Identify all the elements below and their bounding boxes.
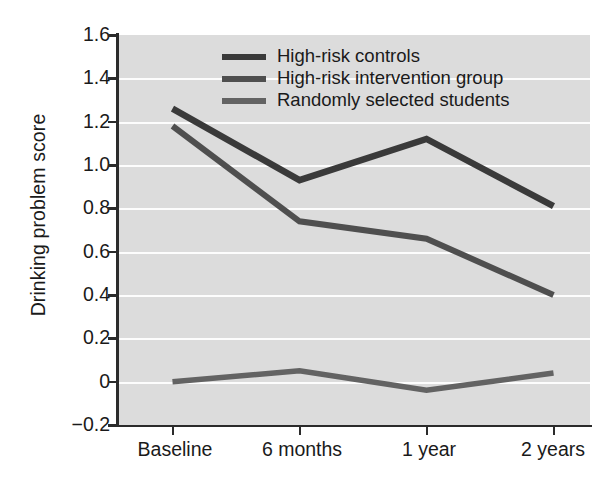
gridline-1-2	[118, 122, 590, 124]
y-tick-label-1-0: 1.0	[52, 155, 110, 175]
gridline-0-6	[118, 252, 590, 254]
legend-label-high-risk-intervention-group: High-risk intervention group	[277, 67, 503, 89]
y-tick-label-1-6: 1.6	[52, 25, 110, 45]
y-tick-label-0: 0	[52, 372, 110, 392]
gridline-0-2	[118, 338, 590, 340]
gridline-0-8	[118, 208, 590, 210]
legend-swatch-icon-high-risk-controls	[222, 54, 266, 60]
y-tick-label-neg-0-2: −0.2	[52, 415, 110, 435]
y-tick-mark-neg-0-2	[108, 424, 119, 427]
chart-legend: High-risk controls High-risk interventio…	[222, 46, 562, 112]
legend-item-randomly-selected-students: Randomly selected students	[222, 90, 562, 112]
x-tick-label-2-years: 2 years	[521, 440, 585, 460]
y-axis-tick-label-group: 1.6 1.4 1.2 1.0 0.8 0.6 0.4 0.2 0 −0.2	[52, 35, 110, 425]
y-tick-label-0-4: 0.4	[52, 285, 110, 305]
x-tick-label-6-months: 6 months	[262, 440, 342, 460]
y-tick-mark-1-0	[108, 164, 119, 167]
gridline-0	[118, 382, 590, 384]
y-tick-label-1-2: 1.2	[52, 112, 110, 132]
y-tick-mark-0-2	[108, 337, 119, 340]
y-axis-line	[116, 33, 119, 427]
legend-swatch-icon-high-risk-intervention-group	[222, 76, 266, 82]
legend-item-high-risk-intervention-group: High-risk intervention group	[222, 68, 562, 90]
y-tick-label-1-4: 1.4	[52, 69, 110, 89]
y-tick-label-0-2: 0.2	[52, 329, 110, 349]
legend-swatch-icon-randomly-selected-students	[222, 98, 266, 104]
gridline-0-4	[118, 295, 590, 297]
y-tick-mark-1-2	[108, 121, 119, 124]
x-tick-label-1-year: 1 year	[402, 440, 456, 460]
y-tick-label-0-8: 0.8	[52, 199, 110, 219]
y-tick-mark-0	[108, 381, 119, 384]
x-tick-label-baseline: Baseline	[138, 440, 213, 460]
legend-item-high-risk-controls: High-risk controls	[222, 46, 562, 68]
x-tick-mark-6-months	[299, 425, 301, 435]
x-tick-mark-2-years	[553, 425, 555, 435]
gridline-1-0	[118, 165, 590, 167]
line-chart-figure: Drinking problem score 1.6 1.4 1.2 1.0 0…	[0, 0, 612, 488]
legend-label-randomly-selected-students: Randomly selected students	[277, 89, 509, 111]
legend-label-high-risk-controls: High-risk controls	[277, 45, 420, 67]
y-tick-mark-0-6	[108, 251, 119, 254]
y-tick-mark-0-8	[108, 207, 119, 210]
y-tick-mark-1-4	[108, 77, 119, 80]
y-tick-mark-0-4	[108, 294, 119, 297]
y-tick-mark-1-6	[108, 34, 119, 37]
y-tick-label-0-6: 0.6	[52, 242, 110, 262]
x-axis-line	[116, 425, 592, 428]
x-tick-mark-1-year	[426, 425, 428, 435]
x-tick-mark-baseline	[172, 425, 174, 435]
